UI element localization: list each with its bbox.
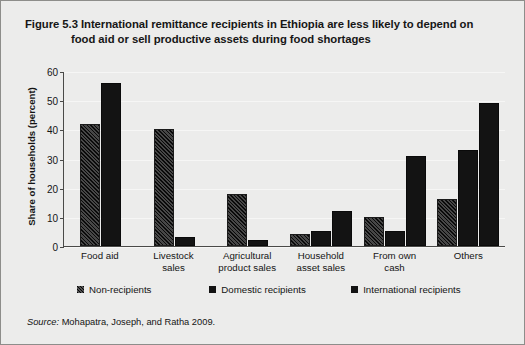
y-axis-title: Share of households (percent) — [26, 67, 37, 247]
bar-group — [358, 72, 432, 246]
bar — [248, 240, 268, 246]
legend-swatch-icon — [351, 286, 358, 293]
x-axis-label-line: Others — [431, 250, 505, 262]
x-axis-label: Food aid — [63, 250, 137, 273]
legend-swatch-icon — [209, 286, 216, 293]
legend-label: International recipients — [363, 284, 460, 295]
bar — [458, 150, 478, 246]
x-axis-label-line: asset sales — [284, 262, 358, 274]
chart-legend: Non-recipientsDomestic recipientsInterna… — [63, 284, 493, 295]
y-tick-label: 60 — [47, 67, 58, 78]
legend-item[interactable]: Domestic recipients — [209, 284, 351, 295]
y-tick-label: 0 — [52, 242, 58, 253]
y-tick-label: 40 — [47, 125, 58, 136]
source-label: Source: — [27, 317, 59, 327]
bar — [80, 124, 100, 247]
x-axis-label-line: sales — [137, 262, 211, 274]
y-tick-mark — [60, 247, 64, 248]
x-axis-label-line: product sales — [210, 262, 284, 274]
bar — [154, 129, 174, 246]
x-axis-label-line: Food aid — [63, 250, 137, 262]
y-tick-label: 50 — [47, 96, 58, 107]
figure-title-line-2: food aid or sell productive assets durin… — [71, 32, 505, 47]
legend-item[interactable]: International recipients — [351, 284, 493, 295]
x-axis-label: Householdasset sales — [284, 250, 358, 273]
y-tick-label: 10 — [47, 212, 58, 223]
bar — [332, 211, 352, 246]
bar — [101, 83, 121, 246]
bar — [290, 234, 310, 246]
legend-label: Domestic recipients — [221, 284, 306, 295]
x-axis-label-line: Agricultural — [210, 250, 284, 262]
y-tick-label: 20 — [47, 183, 58, 194]
bar-groups — [64, 72, 505, 246]
source-note: Source: Mohapatra, Joseph, and Ratha 200… — [27, 317, 215, 327]
x-axis-category-labels: Food aidLivestocksalesAgriculturalproduc… — [63, 250, 505, 273]
x-axis-label-line: cash — [358, 262, 432, 274]
figure-container: Figure 5.3 International remittance reci… — [0, 0, 525, 345]
legend-label: Non-recipients — [89, 284, 151, 295]
bar — [479, 103, 499, 246]
bar — [311, 231, 331, 246]
x-axis-label: From owncash — [358, 250, 432, 273]
bar-group — [138, 72, 212, 246]
x-axis-label: Agriculturalproduct sales — [210, 250, 284, 273]
x-axis-label: Others — [431, 250, 505, 273]
bar — [437, 199, 457, 246]
bar-group — [432, 72, 506, 246]
legend-item[interactable]: Non-recipients — [77, 284, 209, 295]
figure-title-line-1: Figure 5.3 International remittance reci… — [25, 17, 505, 32]
bar — [364, 217, 384, 246]
bar-group — [285, 72, 359, 246]
x-axis-label-line: From own — [358, 250, 432, 262]
bar — [406, 156, 426, 246]
legend-swatch-icon — [77, 286, 84, 293]
source-citation: Mohapatra, Joseph, and Ratha 2009. — [59, 317, 215, 327]
x-axis-label-line: Household — [284, 250, 358, 262]
bar — [227, 194, 247, 247]
y-tick-label: 30 — [47, 154, 58, 165]
x-axis-label: Livestocksales — [137, 250, 211, 273]
bar-group — [211, 72, 285, 246]
figure-title: Figure 5.3 International remittance reci… — [25, 17, 505, 47]
y-gridline — [64, 247, 505, 248]
x-axis-label-line: Livestock — [137, 250, 211, 262]
bar — [175, 237, 195, 246]
plot-area: 0102030405060 — [63, 72, 505, 247]
bar — [385, 231, 405, 246]
bar-group — [64, 72, 138, 246]
